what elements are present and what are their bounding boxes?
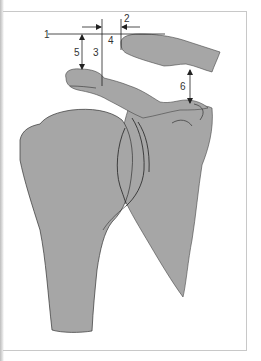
label-6: 6 — [180, 81, 186, 92]
label-2: 2 — [124, 13, 130, 24]
label-1: 1 — [44, 29, 50, 40]
label-4: 4 — [108, 35, 114, 46]
label-3: 3 — [93, 47, 99, 58]
label-5: 5 — [74, 47, 80, 58]
scapula — [120, 105, 212, 298]
humerus — [20, 109, 133, 332]
acromion — [121, 34, 220, 72]
shoulder-diagram: 1 2 3 4 5 6 — [0, 0, 261, 361]
